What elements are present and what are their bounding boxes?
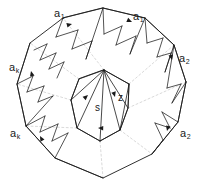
- inner-diagonal-7: [100, 130, 120, 141]
- label-ak-upper-subscript: k: [16, 67, 20, 74]
- label-ak-upper: ak: [9, 62, 19, 73]
- triangulation-edge-15: [116, 36, 136, 45]
- label-a2-lower: a2: [180, 128, 190, 139]
- label-a1-right: a1: [133, 11, 143, 22]
- triangulation-edge-24: [167, 45, 174, 88]
- label-a2-lower-base: a: [180, 127, 186, 139]
- triangulation-edge-12: [103, 8, 104, 34]
- outer-band-arc-4: [26, 126, 103, 178]
- arrow-ak-upper: [29, 70, 35, 76]
- diagram-canvas: [0, 0, 204, 194]
- dotted-ray-4: [100, 141, 103, 178]
- figure-root: a1 a1 a2 a2 ak ak s z: [0, 0, 204, 194]
- label-a2-upper: a2: [179, 53, 189, 64]
- label-a1-left-base: a: [54, 7, 60, 19]
- outer-band-arc-2: [152, 82, 186, 154]
- label-ak-upper-base: a: [9, 61, 15, 73]
- arrow-a1-right: [126, 18, 133, 24]
- label-s: s: [95, 103, 100, 113]
- triangulation-edge-44: [55, 133, 68, 158]
- label-a1-right-base: a: [133, 10, 139, 22]
- label-a2-lower-subscript: 2: [187, 133, 191, 140]
- arrow-z: [111, 91, 117, 97]
- inner-diagonal-5: [104, 70, 128, 108]
- label-a1-left: a1: [54, 8, 64, 19]
- arrow-a1-left: [66, 22, 72, 28]
- arrowhead-group: [29, 18, 174, 142]
- triangulation-edge-7: [56, 30, 78, 37]
- triangulation-edge-38: [26, 96, 53, 126]
- label-a2-upper-base: a: [179, 52, 185, 64]
- label-z: z: [118, 93, 123, 103]
- inner-diagonal-2: [100, 70, 104, 141]
- triangulation-edge-13: [104, 26, 122, 34]
- label-a1-right-subscript: 1: [140, 16, 144, 23]
- label-ak-lower-base: a: [10, 127, 16, 139]
- arrow-s: [83, 93, 90, 100]
- label-ak-lower-subscript: k: [17, 133, 21, 140]
- triangulation-edge-18: [145, 18, 147, 43]
- triangulation-edge-20: [157, 38, 163, 57]
- triangulation-edge-14: [116, 26, 122, 45]
- triangulation-edge-17: [130, 18, 145, 54]
- label-a2-upper-subscript: 2: [186, 58, 190, 65]
- outer-band-arc-1: [145, 18, 186, 82]
- triangulation-edge-8: [72, 30, 78, 49]
- dotted-ray-3: [120, 130, 152, 154]
- label-a1-left-subscript: 1: [61, 13, 65, 20]
- dotted-ray-group: [17, 18, 186, 178]
- label-ak-lower: ak: [10, 128, 20, 139]
- triangulation-edge-19: [147, 38, 163, 43]
- triangulation-edge-11: [86, 8, 103, 59]
- triangulation-edge-26: [172, 84, 181, 103]
